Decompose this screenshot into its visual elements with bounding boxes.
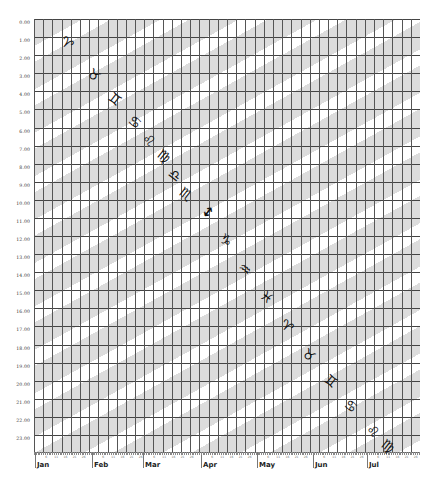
day-tick xyxy=(378,452,379,455)
grid-vline xyxy=(71,19,72,453)
grid-vline xyxy=(255,19,256,453)
grid-vline xyxy=(209,19,210,453)
day-tick xyxy=(199,452,200,455)
day-label: 6 xyxy=(102,455,104,459)
day-tick xyxy=(63,452,64,455)
y-tick-label: 0.00 xyxy=(0,20,30,25)
day-tick xyxy=(127,452,128,455)
day-label: 16 xyxy=(341,455,345,459)
y-tick-label: 18.00 xyxy=(0,346,30,351)
day-tick xyxy=(217,452,218,455)
day-tick xyxy=(413,452,414,455)
day-tick xyxy=(175,452,176,455)
y-tick-label: 11.00 xyxy=(0,219,30,224)
month-label: Mar xyxy=(145,461,160,469)
grid-vline xyxy=(392,19,393,453)
day-tick xyxy=(272,452,273,455)
day-tick xyxy=(173,452,174,455)
day-tick xyxy=(287,452,288,455)
day-tick xyxy=(113,452,114,455)
day-tick xyxy=(120,452,121,455)
day-tick xyxy=(345,452,346,455)
day-label: 16 xyxy=(395,455,399,459)
day-tick xyxy=(228,452,229,455)
grid-vline xyxy=(62,19,63,453)
grid-vline xyxy=(52,19,53,453)
day-tick xyxy=(298,452,299,455)
day-tick xyxy=(245,452,246,455)
day-tick xyxy=(285,452,286,455)
day-label: 21 xyxy=(181,455,185,459)
day-tick xyxy=(395,452,396,455)
day-label: 21 xyxy=(351,455,355,459)
day-tick xyxy=(300,452,301,455)
day-label: 11 xyxy=(332,455,336,459)
day-tick xyxy=(39,452,40,455)
y-tick-label: 15.00 xyxy=(0,291,30,296)
month-label: Jul xyxy=(369,461,379,469)
day-tick xyxy=(373,452,374,455)
grid-vline xyxy=(135,19,136,453)
day-tick xyxy=(107,452,108,455)
day-label: 16 xyxy=(229,455,233,459)
day-tick xyxy=(309,452,310,455)
day-tick xyxy=(219,452,220,455)
month-label: Apr xyxy=(203,461,217,469)
grid-vline xyxy=(383,19,384,453)
month-label: May xyxy=(259,461,275,469)
day-tick xyxy=(325,452,326,455)
grid-vline xyxy=(43,19,44,453)
day-tick xyxy=(408,452,409,455)
day-tick xyxy=(45,452,46,455)
day-tick xyxy=(111,452,112,455)
grid-vline xyxy=(291,19,292,453)
day-tick xyxy=(349,452,350,455)
day-tick xyxy=(336,452,337,455)
day-tick xyxy=(252,452,253,455)
day-tick xyxy=(182,452,183,455)
day-tick xyxy=(188,452,189,455)
day-tick xyxy=(210,452,211,455)
day-tick xyxy=(223,452,224,455)
day-tick xyxy=(124,452,125,455)
day-tick xyxy=(239,452,240,455)
day-tick xyxy=(311,452,312,455)
day-tick xyxy=(256,452,257,455)
day-tick xyxy=(76,452,77,455)
month-label: Jun xyxy=(315,461,328,469)
grid-vline xyxy=(337,19,338,453)
day-tick xyxy=(289,452,290,455)
zodiac-time-chart: 0.001.002.003.004.005.006.007.008.009.00… xyxy=(0,0,438,486)
month-label: Jan xyxy=(37,461,49,469)
y-tick-label: 3.00 xyxy=(0,74,30,79)
day-tick xyxy=(131,452,132,455)
y-tick-label: 12.00 xyxy=(0,237,30,242)
grid-vline xyxy=(126,19,127,453)
day-tick xyxy=(215,452,216,455)
day-tick xyxy=(164,452,165,455)
day-label: 21 xyxy=(405,455,409,459)
day-tick xyxy=(360,452,361,455)
grid-vline xyxy=(199,19,200,453)
day-tick xyxy=(129,452,130,455)
day-tick xyxy=(296,452,297,455)
day-tick xyxy=(415,452,416,455)
day-label: 6 xyxy=(323,455,325,459)
day-tick xyxy=(83,452,84,455)
day-tick xyxy=(47,452,48,455)
day-tick xyxy=(230,452,231,455)
day-tick xyxy=(307,452,308,455)
day-tick xyxy=(226,452,227,455)
day-tick xyxy=(411,452,412,455)
day-tick xyxy=(391,452,392,455)
month-label: Feb xyxy=(94,461,108,469)
day-tick xyxy=(331,452,332,455)
y-tick-label: 22.00 xyxy=(0,418,30,423)
grid-vline xyxy=(34,19,35,453)
grid-vline xyxy=(153,19,154,453)
day-tick xyxy=(364,452,365,455)
day-tick xyxy=(281,452,282,455)
y-tick-label: 4.00 xyxy=(0,92,30,97)
day-tick xyxy=(65,452,66,455)
day-label: 6 xyxy=(211,455,213,459)
